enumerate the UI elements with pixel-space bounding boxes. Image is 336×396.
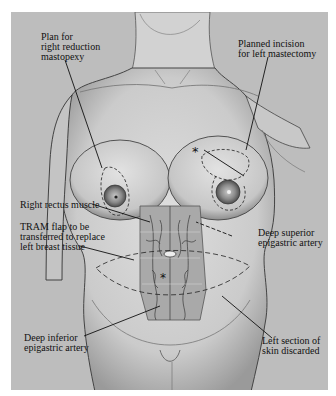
- neck: [132, 12, 215, 70]
- label-planned-incision-left: Planned incision for left mastectomy: [238, 39, 316, 59]
- label-plan-right-reduction: Plan for right reduction mastopexy: [41, 32, 100, 62]
- marker-asterisk-flap: *: [160, 271, 166, 285]
- rectus-muscle: [140, 206, 206, 320]
- umbilicus: [164, 251, 176, 257]
- label-deep-inferior-epigastric: Deep inferior epigastric artery: [24, 333, 89, 353]
- label-deep-superior-epigastric: Deep superior epigastric artery: [258, 228, 323, 248]
- label-right-rectus-muscle: Right rectus muscle: [20, 200, 99, 210]
- label-tram-flap: TRAM flap to be transferred to replace l…: [20, 222, 105, 252]
- marker-asterisk-breast: *: [192, 144, 199, 159]
- label-left-section-skin: Left section of skin discarded: [262, 336, 320, 356]
